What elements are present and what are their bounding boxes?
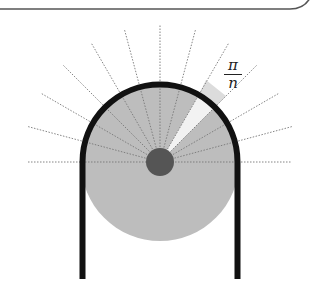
angle-numerator: π bbox=[228, 56, 238, 74]
diagram: π n bbox=[0, 0, 313, 306]
angle-label: π n bbox=[224, 58, 242, 91]
hub bbox=[146, 148, 174, 176]
frame-border bbox=[0, 0, 310, 9]
angle-denominator: n bbox=[228, 74, 238, 92]
